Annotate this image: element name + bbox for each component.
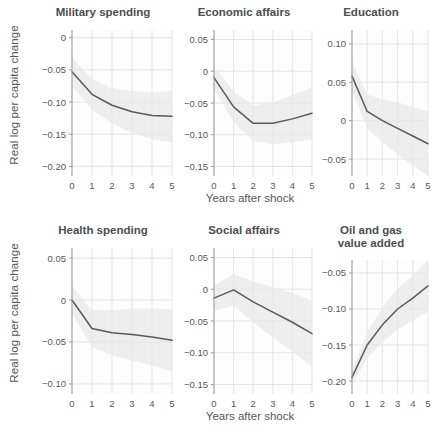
tick-label-x: 2 [109,180,114,191]
tick-label-y: 0 [341,115,346,126]
tick-label-x: 0 [349,398,354,409]
panel-title-health-spending: Health spending [28,224,178,237]
panel-title-oil-and-gas-value-added: Oil and gas value added [308,224,434,250]
tick-label-y: −0.05 [322,154,346,165]
tick-label-x: 1 [365,398,370,409]
panel-health-spending: Health spending 0.050−0.05−0.10012345 [28,218,178,418]
tick-label-y: 0 [203,284,208,295]
tick-label-y: 0 [61,295,66,306]
y-axis-title-top-text: Real log per capita change [8,25,20,164]
tick-label-x: 0 [69,180,74,191]
tick-label-y: 0.05 [48,253,67,264]
plot-social-affairs: 0.050−0.05−0.10−0.15012345 [170,242,318,418]
tick-label-x: 2 [251,398,256,409]
plot-oil-and-gas-value-added: −0.05−0.10−0.15−0.20012345 [308,254,434,418]
tick-label-y: −0.05 [184,316,208,327]
tick-label-y: −0.15 [184,379,208,390]
tick-label-y: −0.10 [322,303,346,314]
tick-label-y: −0.20 [42,161,66,172]
panel-title-social-affairs: Social affairs [170,224,318,237]
panel-title-economic-affairs: Economic affairs [170,6,318,19]
tick-label-x: 4 [290,180,295,191]
plot-economic-affairs: 0.050−0.05−0.10−0.15012345 [170,24,318,200]
chart-svg: 0.050−0.05−0.10−0.15012345 [170,24,318,200]
tick-label-x: 3 [395,398,400,409]
tick-label-y: −0.10 [184,347,208,358]
y-axis-title-bottom: Real log per capita change [0,218,28,408]
tick-label-x: 2 [380,398,385,409]
tick-label-x: 0 [211,398,216,409]
tick-label-x: 2 [251,180,256,191]
tick-label-x: 4 [410,180,415,191]
tick-label-y: −0.05 [42,64,66,75]
tick-label-y: 0 [61,32,66,43]
tick-label-x: 5 [425,180,430,191]
tick-label-x: 1 [231,180,236,191]
tick-label-x: 2 [109,398,114,409]
panel-social-affairs: Social affairs 0.050−0.05−0.10−0.1501234… [170,218,318,418]
tick-label-x: 5 [425,398,430,409]
plot-military-spending: 0−0.05−0.10−0.15−0.20012345 [28,24,178,200]
chart-svg: 0.100.050−0.05012345 [308,24,434,200]
tick-label-y: −0.05 [184,98,208,109]
tick-label-y: −0.05 [322,267,346,278]
tick-label-x: 1 [231,398,236,409]
panel-title-education: Education [308,6,434,19]
tick-label-x: 4 [149,398,154,409]
x-axis-title-top: Years after shock [170,192,330,204]
tick-label-x: 4 [290,398,295,409]
figure-panel-grid: Real log per capita change Military spen… [0,0,434,436]
chart-svg: 0.050−0.05−0.10−0.15012345 [170,242,318,418]
y-axis-title-top: Real log per capita change [0,0,28,190]
panel-title-military-spending: Military spending [28,6,178,19]
plot-education: 0.100.050−0.05012345 [308,24,434,200]
tick-label-x: 3 [270,398,275,409]
panel-oil-and-gas-value-added: Oil and gas value added −0.05−0.10−0.15−… [308,218,434,418]
x-axis-title-bottom: Years after shock [170,410,330,422]
tick-label-x: 3 [395,180,400,191]
tick-label-x: 0 [69,398,74,409]
tick-label-y: 0.05 [190,34,209,45]
tick-label-y: −0.15 [322,340,346,351]
panel-economic-affairs: Economic affairs 0.050−0.05−0.10−0.15012… [170,0,318,200]
chart-svg: 0.050−0.05−0.10012345 [28,242,178,418]
chart-svg: 0−0.05−0.10−0.15−0.20012345 [28,24,178,200]
tick-label-x: 1 [89,398,94,409]
tick-label-x: 3 [270,180,275,191]
tick-label-x: 0 [211,180,216,191]
tick-label-y: −0.15 [42,129,66,140]
y-axis-title-bottom-text: Real log per capita change [8,243,20,382]
tick-label-y: −0.10 [42,378,66,389]
tick-label-y: 0.05 [328,77,347,88]
tick-label-x: 2 [380,180,385,191]
tick-label-x: 3 [129,398,134,409]
tick-label-x: 4 [149,180,154,191]
panel-education: Education 0.100.050−0.05012345 [308,0,434,200]
tick-label-y: 0.10 [328,38,347,49]
tick-label-x: 1 [365,180,370,191]
tick-label-y: −0.05 [42,336,66,347]
tick-label-x: 4 [410,398,415,409]
tick-label-y: −0.10 [184,129,208,140]
panel-row-bottom: Real log per capita change Health spendi… [0,218,434,436]
tick-label-y: −0.10 [42,97,66,108]
tick-label-x: 1 [89,180,94,191]
tick-label-y: −0.15 [184,161,208,172]
tick-label-y: 0 [203,66,208,77]
chart-svg: −0.05−0.10−0.15−0.20012345 [308,254,434,418]
plot-health-spending: 0.050−0.05−0.10012345 [28,242,178,418]
tick-label-x: 0 [349,180,354,191]
tick-label-y: 0.05 [190,252,209,263]
panel-military-spending: Military spending 0−0.05−0.10−0.15−0.200… [28,0,178,200]
tick-label-x: 3 [129,180,134,191]
tick-label-y: −0.20 [322,376,346,387]
panel-row-top: Real log per capita change Military spen… [0,0,434,218]
